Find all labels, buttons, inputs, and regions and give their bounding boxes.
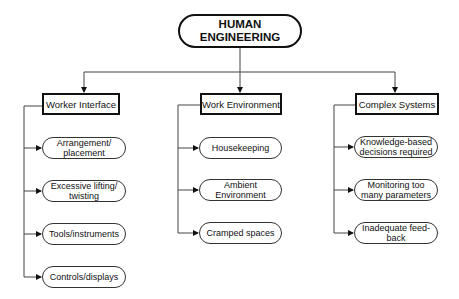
leaf-line1: Excessive lifting/ — [51, 181, 118, 191]
leaf-line1: Tools/instruments — [49, 229, 119, 239]
category-label: Complex Systems — [359, 99, 436, 110]
leaf-monitoring-parameters: Monitoring too many parameters — [354, 179, 438, 201]
root-line1: HUMAN — [219, 18, 262, 31]
leaf-knowledge-based: Knowledge-based decisions required — [354, 136, 438, 158]
category-label: Worker Interface — [46, 99, 116, 110]
leaf-line1: Controls/displays — [50, 272, 119, 282]
leaf-line1: Arrangement/ — [57, 138, 112, 148]
leaf-line1: Cramped spaces — [206, 228, 274, 238]
leaf-controls-displays: Controls/displays — [42, 266, 126, 288]
leaf-line1: Ambient — [224, 180, 257, 190]
leaf-ambient-environment: Ambient Environment — [199, 179, 282, 201]
leaf-line1: Knowledge-based — [360, 137, 432, 147]
leaf-line2: decisions required — [359, 147, 432, 157]
leaf-line2: many parameters — [361, 190, 431, 200]
category-work-environment: Work Environment — [200, 93, 282, 115]
category-complex-systems: Complex Systems — [355, 93, 439, 115]
leaf-arrangement-placement: Arrangement/ placement — [42, 137, 126, 159]
leaf-excessive-lifting: Excessive lifting/ twisting — [42, 180, 126, 202]
root-line2: ENGINEERING — [200, 31, 281, 44]
leaf-line2: back — [386, 233, 405, 243]
category-worker-interface: Worker Interface — [42, 93, 120, 115]
leaf-line2: Environment — [215, 190, 266, 200]
leaf-housekeeping: Housekeeping — [199, 137, 282, 159]
leaf-tools-instruments: Tools/instruments — [42, 223, 126, 245]
leaf-line2: placement — [63, 148, 105, 158]
category-label: Work Environment — [202, 99, 280, 110]
root-node-human-engineering: HUMAN ENGINEERING — [178, 14, 302, 48]
leaf-line1: Inadequate feed- — [362, 223, 430, 233]
leaf-line2: twisting — [69, 191, 99, 201]
leaf-line1: Monitoring too — [367, 180, 424, 190]
leaf-inadequate-feedback: Inadequate feed- back — [354, 222, 438, 244]
leaf-line1: Housekeeping — [212, 143, 270, 153]
leaf-cramped-spaces: Cramped spaces — [199, 222, 282, 244]
